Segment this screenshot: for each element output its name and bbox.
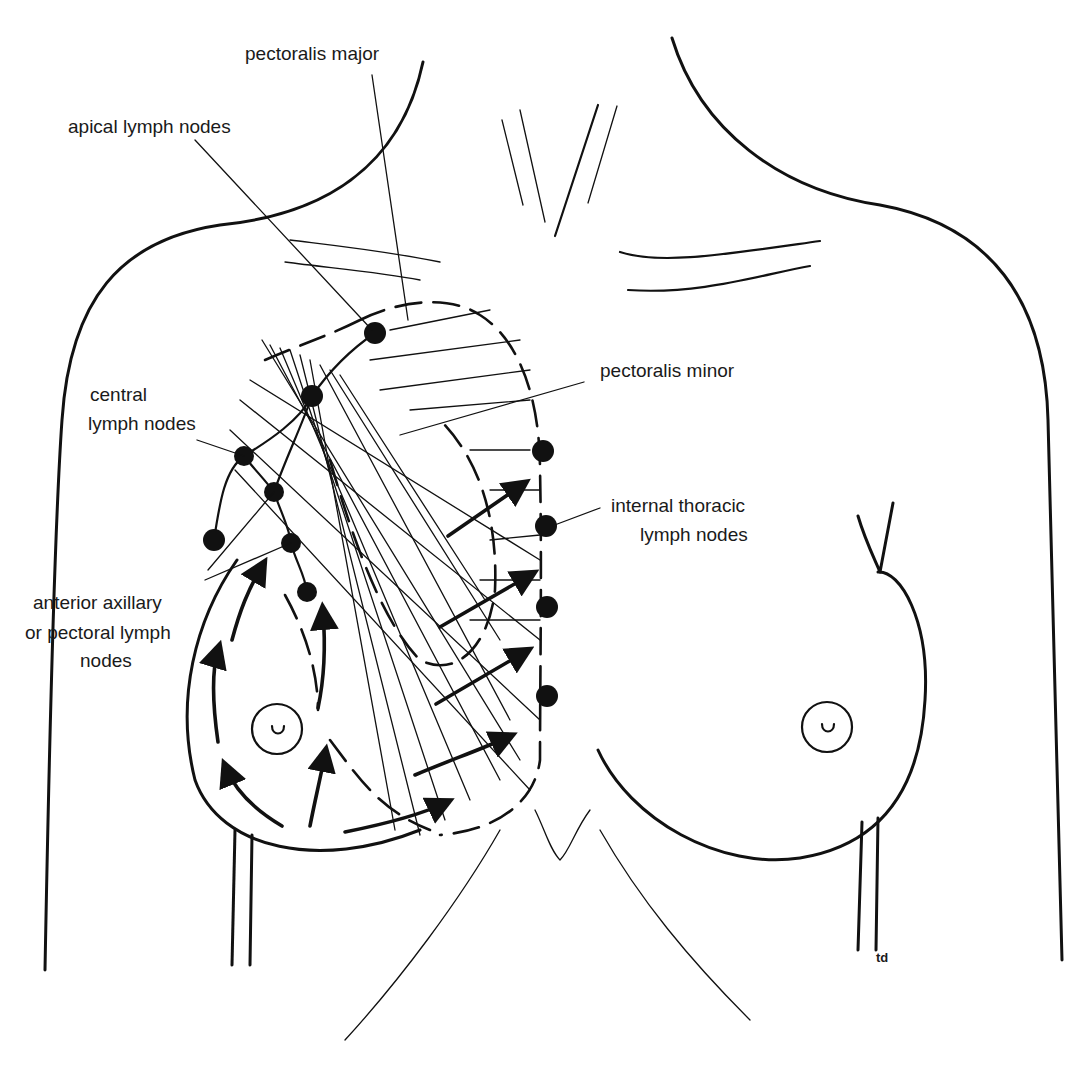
label-pectoralis-minor: pectoralis minor <box>600 360 735 381</box>
internal-thoracic-node-1 <box>532 440 554 462</box>
artist-signature: td <box>876 950 888 965</box>
central-node-1 <box>301 385 323 407</box>
label-apical-lymph-nodes: apical lymph nodes <box>68 116 231 137</box>
internal-thoracic-node-3 <box>536 596 558 618</box>
pectoral-node-3 <box>297 582 317 602</box>
right-breast <box>598 503 926 860</box>
label-central-line2: lymph nodes <box>88 413 196 434</box>
leader-lines <box>195 75 600 580</box>
label-internal-thoracic-line1: internal thoracic <box>611 495 745 516</box>
left-breast <box>187 560 420 850</box>
torso-outline <box>45 38 1062 1040</box>
internal-thoracic-node-4 <box>536 685 558 707</box>
label-anterior-axillary-line1: anterior axillary <box>33 592 162 613</box>
label-anterior-axillary-line3: nodes <box>80 650 132 671</box>
lymph-nodes <box>203 322 558 707</box>
label-pectoralis-major: pectoralis major <box>245 43 380 64</box>
label-central-line1: central <box>90 384 147 405</box>
pectoral-node-1 <box>203 529 225 551</box>
label-anterior-axillary-line2: or pectoral lymph <box>25 622 171 643</box>
label-internal-thoracic-line2: lymph nodes <box>640 524 748 545</box>
breast-lymphatics-diagram: pectoralis major apical lymph nodes cent… <box>0 0 1081 1071</box>
